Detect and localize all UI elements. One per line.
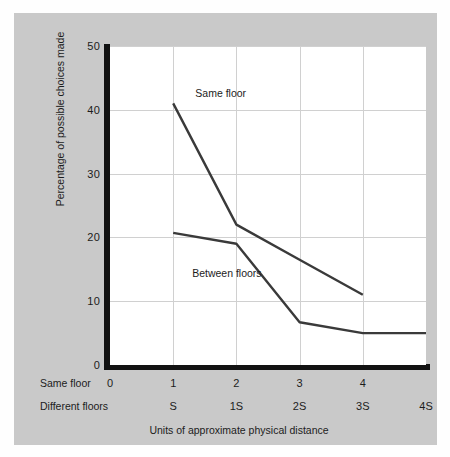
plot-area: Same floorBetween floors (110, 46, 426, 365)
x-axis-tick-label: 3 (285, 377, 315, 389)
y-axis-tick-label: 0 (70, 359, 100, 371)
x-axis-tick-label: 4S (411, 400, 441, 412)
series-annotation-label: Between floors (192, 267, 261, 279)
series-line (173, 103, 363, 294)
x-axis-tick-label: 4 (348, 377, 378, 389)
y-axis-tick-label: 40 (70, 104, 100, 116)
chart-panel: Percentage of possible choices made 5040… (14, 13, 437, 445)
x-axis-tick-label: 1 (158, 377, 188, 389)
x-axis-row-same-floor: Same floor 01234 (14, 377, 450, 395)
y-axis-tick-label: 30 (70, 168, 100, 180)
y-axis-tick-label: 10 (70, 295, 100, 307)
series-line (173, 233, 426, 333)
series-layer (110, 46, 426, 365)
x-axis-tick-label: 0 (95, 377, 125, 389)
y-axis-tick-label: 20 (70, 231, 100, 243)
x-axis-tick-label: 1S (221, 400, 251, 412)
x-axis-tick-label: 2S (285, 400, 315, 412)
x-axis-tick-label: S (158, 400, 188, 412)
x-axis-row-different-floors: Different floors S1S2S3S4S (14, 400, 450, 418)
x-axis-tick-label: 3S (348, 400, 378, 412)
x-axis-row-label-different-floors: Different floors (40, 400, 108, 412)
series-annotation-label: Same floor (195, 87, 246, 99)
chart-figure: Percentage of possible choices made 5040… (0, 0, 450, 457)
y-axis-title: Percentage of possible choices made (54, 29, 66, 209)
x-axis-row-label-same-floor: Same floor (40, 377, 91, 389)
x-axis-title: Units of approximate physical distance (14, 424, 450, 436)
y-axis-tick-labels: 50403020100 (66, 46, 100, 365)
y-axis-tick-label: 50 (70, 40, 100, 52)
x-axis-tick-label: 2 (221, 377, 251, 389)
